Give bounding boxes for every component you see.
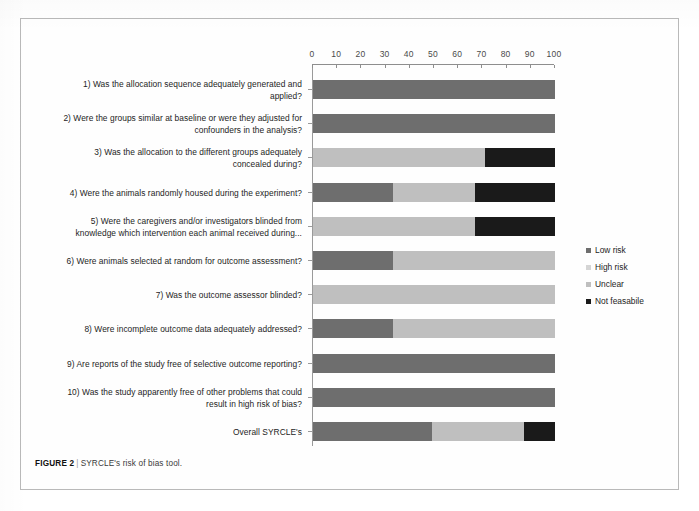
caption-text: SYRCLE's risk of bias tool. [81,459,183,468]
chart-bar-segment [475,217,555,236]
chart-bar-segment [313,183,393,202]
chart-bar-segment [524,422,555,441]
chart-row-label: 8) Were incomplete outcome data adequate… [57,310,302,348]
x-axis-tick-mark [409,65,410,68]
x-axis-tick-label: 40 [404,49,414,59]
chart-row: 8) Were incomplete outcome data adequate… [21,310,680,348]
chart-row-label: 7) Was the outcome assessor blinded? [57,276,302,314]
chart-row-label: 4) Were the animals randomly housed duri… [57,174,302,212]
chart-row: 6) Were animals selected at random for o… [21,242,680,280]
category-axis-tick-mark [308,123,312,124]
chart-bar [313,422,555,441]
x-axis-tick-mark [554,65,555,68]
chart-bar-segment [313,422,432,441]
legend: Low riskHigh riskUnclearNot feasabile [586,242,672,310]
chart-bar-segment [432,422,524,441]
chart-row: 4) Were the animals randomly housed duri… [21,174,680,212]
chart-bar-segment [393,319,555,338]
chart-bar [313,80,555,99]
chart-bar-segment [313,251,393,270]
chart-row: 9) Are reports of the study free of sele… [21,345,680,383]
legend-label: Not feasabile [595,296,644,306]
legend-item: Low risk [586,242,672,258]
legend-label: Unclear [595,279,624,289]
chart-row: 5) Were the caregivers and/or investigat… [21,208,680,246]
category-axis-tick-mark [308,260,312,261]
chart-row-label: Overall SYRCLE's [57,413,302,451]
x-axis-tick-label: 20 [355,49,365,59]
chart-row: 3) Was the allocation to the different g… [21,139,680,177]
chart-bar [313,388,555,407]
chart-bar [313,217,555,236]
category-axis-tick-mark [308,397,312,398]
x-axis-tick-labels: 0102030405060708090100 [312,49,554,63]
chart-bar-segment [393,251,555,270]
page-root: 0102030405060708090100 1) Was the alloca… [0,0,699,511]
chart-row: 7) Was the outcome assessor blinded? [21,276,680,314]
figure-caption: FIGURE 2|SYRCLE's risk of bias tool. [35,459,665,468]
chart-row: Overall SYRCLE's [21,413,680,451]
legend-item: Unclear [586,276,672,292]
category-axis-tick-mark [308,226,312,227]
chart-row-label: 10) Was the study apparently free of oth… [57,379,302,417]
x-axis-tick-label: 90 [525,49,535,59]
chart-bar [313,251,555,270]
legend-item: High risk [586,259,672,275]
category-axis-tick-mark [308,363,312,364]
x-axis-tick-label: 50 [428,49,438,59]
chart-bar-segment [313,114,555,133]
legend-swatch-icon [586,299,591,304]
category-axis-tick-mark [308,294,312,295]
category-axis-tick-mark [308,192,312,193]
chart-bar-segment [313,80,555,99]
chart-bar [313,183,555,202]
chart-plot-area: 0102030405060708090100 1) Was the alloca… [21,19,680,449]
x-axis-tick-mark [312,65,313,68]
x-axis-tick-mark [360,65,361,68]
legend-label: Low risk [595,245,626,255]
chart-row-label: 5) Were the caregivers and/or investigat… [57,208,302,246]
category-axis-tick-mark [308,157,312,158]
chart-bar-segment [313,148,485,167]
chart-row-label: 1) Was the allocation sequence adequatel… [57,71,302,109]
chart-bar-segment [313,217,475,236]
x-axis-tick-label: 0 [310,49,315,59]
chart-bar [313,354,555,373]
chart-bar-segment [313,388,555,407]
chart-bar-segment [313,285,555,304]
chart-bar-segment [485,148,555,167]
x-axis-tick-mark [385,65,386,68]
category-axis-tick-mark [308,328,312,329]
chart-row-label: 3) Was the allocation to the different g… [57,139,302,177]
legend-swatch-icon [586,248,591,253]
figure-frame: 0102030405060708090100 1) Was the alloca… [20,18,679,490]
chart-bar-segment [313,354,555,373]
chart-bar-segment [313,319,393,338]
chart-row-label: 9) Are reports of the study free of sele… [57,345,302,383]
x-axis-tick-label: 30 [380,49,390,59]
chart-row: 10) Was the study apparently free of oth… [21,379,680,417]
x-axis-tick-mark [506,65,507,68]
chart-bar [313,319,555,338]
chart-row-label: 2) Were the groups similar at baseline o… [57,105,302,143]
x-axis-tick-label: 60 [452,49,462,59]
legend-swatch-icon [586,282,591,287]
legend-label: High risk [595,262,628,272]
chart-bar [313,148,555,167]
category-axis-tick-mark [308,89,312,90]
chart-row-label: 6) Were animals selected at random for o… [57,242,302,280]
x-axis-tick-mark [433,65,434,68]
x-axis-tick-label: 10 [331,49,341,59]
chart-bar [313,285,555,304]
legend-item: Not feasabile [586,293,672,309]
chart-bar-segment [475,183,555,202]
caption-label: FIGURE 2 [35,459,74,468]
chart-bar [313,114,555,133]
x-axis-tick-label: 80 [501,49,511,59]
x-axis-tick-mark [530,65,531,68]
x-axis-tick-mark [336,65,337,68]
chart-row: 2) Were the groups similar at baseline o… [21,105,680,143]
legend-swatch-icon [586,265,591,270]
x-axis-tick-label: 70 [476,49,486,59]
x-axis-tick-mark [457,65,458,68]
